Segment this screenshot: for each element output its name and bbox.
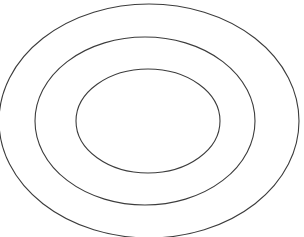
concentric-ellipses-drawing — [0, 0, 304, 237]
figure-canvas — [0, 0, 304, 237]
